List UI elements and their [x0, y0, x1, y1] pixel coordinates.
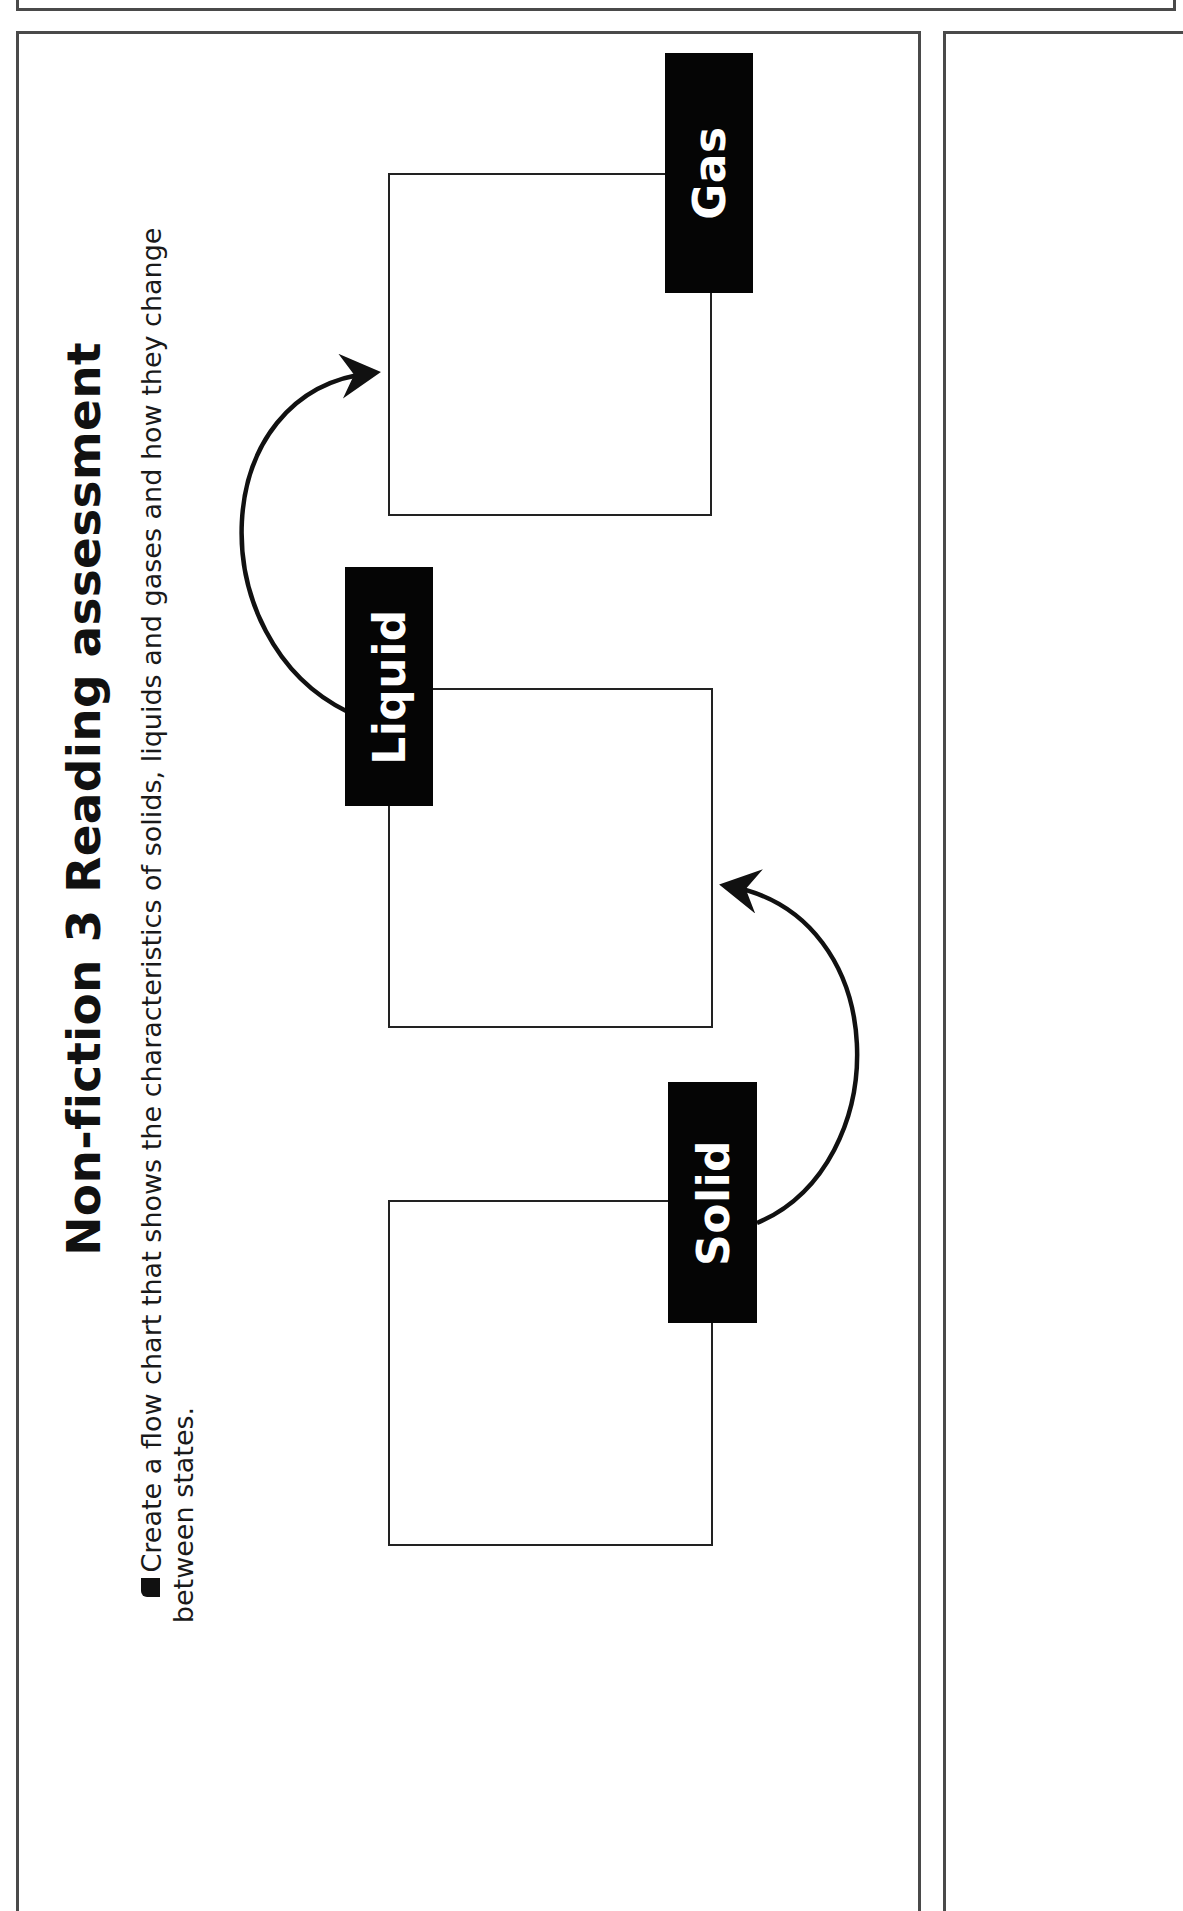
- gas-label-text: Gas: [684, 126, 735, 220]
- liquid-label-text: Liquid: [364, 609, 415, 765]
- gas-label: Gas: [665, 53, 753, 293]
- solid-label: Solid: [668, 1082, 757, 1323]
- solid-label-text: Solid: [687, 1139, 738, 1265]
- liquid-label: Liquid: [345, 567, 433, 806]
